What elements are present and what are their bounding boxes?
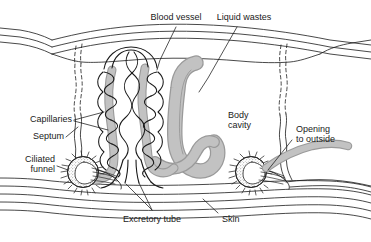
label-capillaries: Capillaries — [2, 114, 72, 125]
label-opening-line1: Opening — [296, 124, 358, 135]
label-ciliated-funnel-line2: funnel — [2, 164, 55, 175]
label-skin: Skin — [222, 214, 262, 225]
bottom-body-wall — [0, 178, 371, 219]
label-ciliated-funnel-line1: Ciliated — [2, 154, 55, 165]
label-opening-line2: to outside — [296, 134, 362, 145]
label-septum: Septum — [2, 131, 64, 142]
liquid-wastes-tube — [155, 63, 218, 171]
opening-to-outside-duct — [266, 144, 371, 192]
label-blood-vessel: Blood vessel — [143, 12, 209, 23]
top-body-wall — [0, 24, 371, 62]
label-liquid-wastes: Liquid wastes — [209, 12, 279, 23]
label-body-cavity-line1: Body — [228, 110, 268, 121]
label-excretory-tube: Excretory tube — [112, 214, 192, 225]
label-body-cavity-line2: cavity — [228, 120, 268, 131]
earthworm-excretory-diagram: Blood vessel Liquid wastes Capillaries S… — [0, 0, 371, 242]
